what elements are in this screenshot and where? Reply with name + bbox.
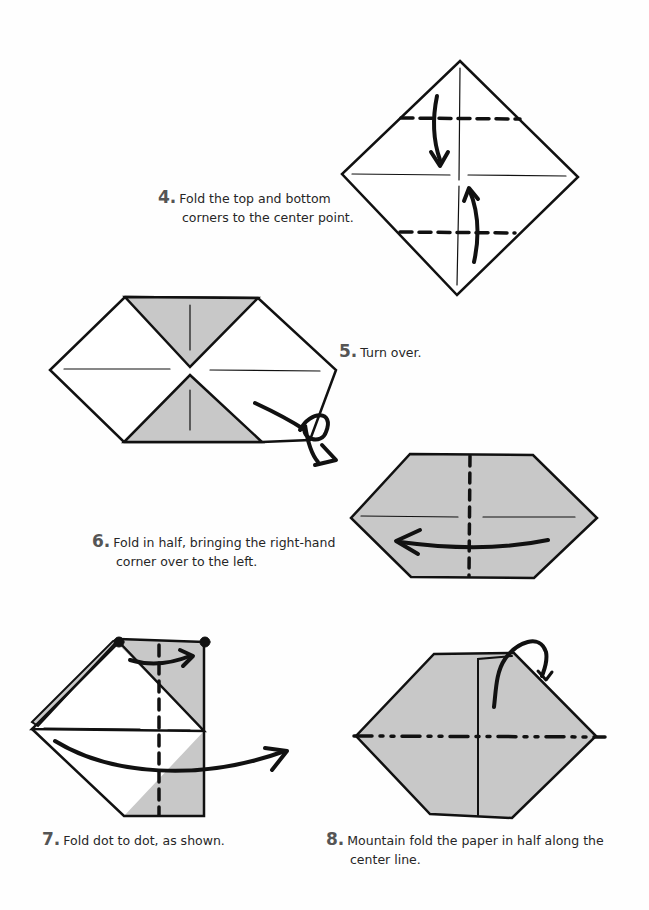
step-number: 5. xyxy=(339,341,357,361)
step-text: Fold dot to dot, as shown. xyxy=(63,833,225,848)
step-5-caption: 5.Turn over. xyxy=(339,342,421,362)
step-text-line2: center line. xyxy=(326,850,604,869)
step-number: 7. xyxy=(42,829,60,849)
step-6-caption: 6.Fold in half, bringing the right-hand … xyxy=(92,532,335,571)
step-text-line2: corners to the center point. xyxy=(158,208,354,227)
step-text: Fold the top and bottom xyxy=(179,191,330,206)
instruction-page: 4.Fold the top and bottom corners to the… xyxy=(0,0,649,910)
step-5-diagram xyxy=(50,297,336,465)
step-text: Fold in half, bringing the right-hand xyxy=(113,535,335,550)
step-6-diagram xyxy=(351,454,597,578)
origami-diagrams xyxy=(0,0,649,910)
step-text: Turn over. xyxy=(360,345,421,360)
step-text: Mountain fold the paper in half along th… xyxy=(347,833,603,848)
step-4-caption: 4.Fold the top and bottom corners to the… xyxy=(158,188,354,227)
step-number: 6. xyxy=(92,531,110,551)
step-number: 4. xyxy=(158,187,176,207)
step-7-caption: 7.Fold dot to dot, as shown. xyxy=(42,830,225,850)
step-4-diagram xyxy=(342,61,578,295)
step-8-caption: 8.Mountain fold the paper in half along … xyxy=(326,830,604,869)
step-8-diagram xyxy=(354,641,605,818)
step-number: 8. xyxy=(326,829,344,849)
step-text-line2: corner over to the left. xyxy=(92,552,335,571)
step-7-diagram xyxy=(32,637,287,816)
